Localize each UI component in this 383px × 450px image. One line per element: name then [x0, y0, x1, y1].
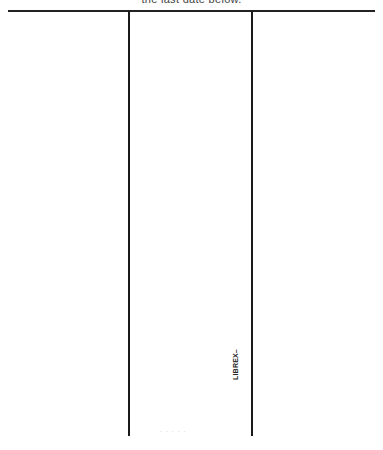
- header-text: the last date below.: [0, 0, 383, 5]
- date-column-1: [8, 12, 128, 435]
- faint-footer-text: . . . . .: [160, 426, 187, 433]
- librex-stamp: LIBREX–: [232, 349, 239, 380]
- date-column-3: [253, 12, 375, 435]
